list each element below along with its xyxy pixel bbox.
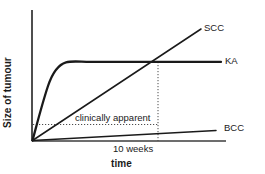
series-label-scc: SCC (204, 23, 224, 33)
clinically-apparent-label: clinically apparent (75, 113, 151, 123)
series-line-scc (33, 29, 202, 141)
series-line-bcc (33, 131, 217, 141)
x-axis-title: time (111, 159, 132, 169)
series-label-bcc: BCC (224, 123, 244, 133)
y-axis-title: Size of tumour (3, 57, 13, 128)
series-label-ka: KA (225, 56, 238, 66)
tumour-growth-chart: Size of tumour time SCC KA BCC clinicall… (0, 0, 265, 174)
ten-weeks-label: 10 weeks (113, 144, 153, 154)
series-line-ka (33, 61, 222, 140)
